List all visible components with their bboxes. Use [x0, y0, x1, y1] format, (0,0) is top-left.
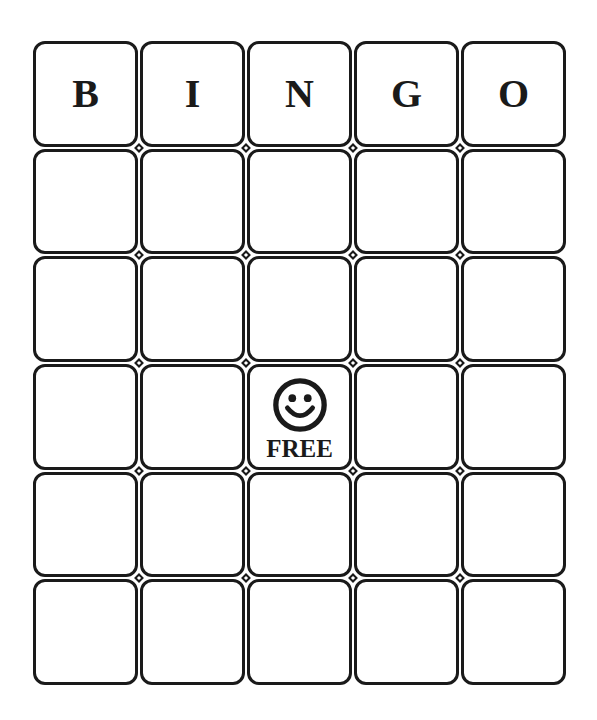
grid-joint	[134, 466, 144, 476]
smiley-face-icon	[271, 376, 329, 434]
bingo-cell[interactable]	[33, 579, 138, 685]
bingo-cell[interactable]	[140, 364, 245, 470]
bingo-cell[interactable]	[33, 364, 138, 470]
header-cell-i: I	[140, 41, 245, 147]
bingo-cell[interactable]	[461, 149, 566, 255]
bingo-cell[interactable]	[247, 579, 352, 685]
bingo-cell[interactable]	[354, 149, 459, 255]
grid-joint	[134, 358, 144, 368]
bingo-cell[interactable]	[461, 472, 566, 578]
header-cell-o: O	[461, 41, 566, 147]
bingo-cell[interactable]	[461, 364, 566, 470]
grid-joint	[134, 143, 144, 153]
header-letter: G	[391, 74, 422, 114]
header-letter: O	[498, 74, 529, 114]
header-letter: B	[72, 74, 99, 114]
header-cell-b: B	[33, 41, 138, 147]
free-space-label: FREE	[266, 436, 333, 461]
grid-joint	[241, 466, 251, 476]
grid-joint	[455, 143, 465, 153]
grid-joint	[348, 466, 358, 476]
grid-joint	[241, 143, 251, 153]
grid-joint	[348, 143, 358, 153]
bingo-cell[interactable]	[140, 579, 245, 685]
bingo-cell[interactable]	[461, 579, 566, 685]
free-space-cell: FREE	[247, 364, 352, 470]
bingo-cell[interactable]	[247, 149, 352, 255]
bingo-cell[interactable]	[354, 364, 459, 470]
header-letter: I	[185, 74, 201, 114]
bingo-cell[interactable]	[354, 579, 459, 685]
header-cell-n: N	[247, 41, 352, 147]
bingo-card: BINGOFREE	[32, 40, 567, 686]
bingo-cell[interactable]	[247, 472, 352, 578]
bingo-cell[interactable]	[140, 149, 245, 255]
bingo-cell[interactable]	[140, 256, 245, 362]
header-cell-g: G	[354, 41, 459, 147]
bingo-cell[interactable]	[247, 256, 352, 362]
grid-joint	[241, 358, 251, 368]
grid-joint	[348, 358, 358, 368]
bingo-cell[interactable]	[354, 472, 459, 578]
bingo-cell[interactable]	[33, 256, 138, 362]
bingo-cell[interactable]	[33, 472, 138, 578]
header-letter: N	[285, 74, 314, 114]
bingo-cell[interactable]	[354, 256, 459, 362]
grid-joint	[455, 466, 465, 476]
grid-joint	[455, 358, 465, 368]
bingo-cell[interactable]	[140, 472, 245, 578]
bingo-cell[interactable]	[461, 256, 566, 362]
bingo-cell[interactable]	[33, 149, 138, 255]
